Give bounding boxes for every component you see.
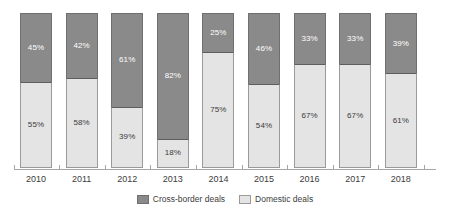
x-axis-tick-2018: [378, 165, 379, 170]
legend-swatch-domestic-icon: [239, 195, 251, 204]
x-axis-tick-2016: [287, 165, 288, 170]
bar-label-cross-border-2015: 46%: [256, 45, 272, 53]
bar-segment-domestic-2015[interactable]: 54%: [248, 84, 280, 168]
bar-label-domestic-2016: 67%: [301, 112, 317, 120]
x-axis-tick-2014: [196, 165, 197, 170]
bar-segment-cross-border-2017[interactable]: 33%: [339, 13, 371, 64]
bar-2012[interactable]: 61%39%: [111, 13, 143, 168]
stacked-bar-chart: 45%55%42%58%61%39%82%18%25%75%46%54%33%6…: [0, 0, 450, 216]
bar-2018[interactable]: 39%61%: [385, 13, 417, 168]
x-axis-line: [14, 169, 436, 170]
bar-segment-cross-border-2013[interactable]: 82%: [157, 13, 189, 139]
bar-segment-domestic-2017[interactable]: 67%: [339, 64, 371, 168]
x-axis-label-2017: 2017: [333, 174, 377, 184]
plot-area: 45%55%42%58%61%39%82%18%25%75%46%54%33%6…: [0, 0, 450, 170]
legend-label-domestic: Domestic deals: [255, 194, 313, 204]
bar-2010[interactable]: 45%55%: [20, 13, 52, 168]
bar-label-domestic-2012: 39%: [119, 133, 135, 141]
x-axis-tick-2013: [150, 165, 151, 170]
bar-label-domestic-2013: 18%: [165, 149, 181, 157]
bar-2015[interactable]: 46%54%: [248, 13, 280, 168]
x-axis-tick-2015: [242, 165, 243, 170]
bar-segment-cross-border-2011[interactable]: 42%: [66, 13, 98, 78]
legend-swatch-cross-icon: [137, 195, 149, 204]
bar-segment-domestic-2013[interactable]: 18%: [157, 139, 189, 168]
x-axis-label-2018: 2018: [379, 174, 423, 184]
x-axis-tick-end: [424, 165, 425, 170]
bar-segment-cross-border-2015[interactable]: 46%: [248, 13, 280, 84]
legend-label-cross: Cross-border deals: [153, 194, 225, 204]
x-axis-label-2012: 2012: [105, 174, 149, 184]
bar-2017[interactable]: 33%67%: [339, 13, 371, 168]
bar-label-cross-border-2016: 33%: [301, 35, 317, 43]
bar-label-domestic-2011: 58%: [73, 119, 89, 127]
x-axis-label-2011: 2011: [60, 174, 104, 184]
chart-legend: Cross-border dealsDomestic deals: [0, 194, 450, 204]
bar-label-domestic-2017: 67%: [347, 112, 363, 120]
bar-label-cross-border-2018: 39%: [393, 40, 409, 48]
x-axis-tick-2010: [14, 165, 15, 170]
bar-label-domestic-2015: 54%: [256, 122, 272, 130]
x-axis-label-2015: 2015: [242, 174, 286, 184]
bar-label-cross-border-2013: 82%: [165, 72, 181, 80]
bar-segment-cross-border-2018[interactable]: 39%: [385, 13, 417, 73]
bar-label-domestic-2010: 55%: [28, 121, 44, 129]
bar-segment-cross-border-2014[interactable]: 25%: [202, 13, 234, 52]
x-axis-label-2010: 2010: [14, 174, 58, 184]
x-axis-tick-2017: [333, 165, 334, 170]
bar-2011[interactable]: 42%58%: [66, 13, 98, 168]
bar-segment-cross-border-2012[interactable]: 61%: [111, 13, 143, 107]
bar-label-cross-border-2017: 33%: [347, 35, 363, 43]
bar-segment-cross-border-2010[interactable]: 45%: [20, 13, 52, 82]
bar-label-domestic-2018: 61%: [393, 117, 409, 125]
bar-2014[interactable]: 25%75%: [202, 13, 234, 168]
x-axis-label-2013: 2013: [151, 174, 195, 184]
bar-label-domestic-2014: 75%: [210, 106, 226, 114]
bar-segment-domestic-2010[interactable]: 55%: [20, 82, 52, 168]
bar-label-cross-border-2011: 42%: [73, 42, 89, 50]
bar-segment-domestic-2018[interactable]: 61%: [385, 73, 417, 168]
bar-label-cross-border-2014: 25%: [210, 29, 226, 37]
bar-2013[interactable]: 82%18%: [157, 13, 189, 168]
bar-segment-domestic-2011[interactable]: 58%: [66, 78, 98, 168]
bar-segment-domestic-2014[interactable]: 75%: [202, 52, 234, 168]
bar-label-cross-border-2012: 61%: [119, 56, 135, 64]
bar-2016[interactable]: 33%67%: [294, 13, 326, 168]
x-axis-tick-2011: [59, 165, 60, 170]
x-axis-label-2014: 2014: [196, 174, 240, 184]
bar-segment-domestic-2012[interactable]: 39%: [111, 107, 143, 168]
bar-segment-cross-border-2016[interactable]: 33%: [294, 13, 326, 64]
legend-item-cross[interactable]: Cross-border deals: [137, 194, 225, 204]
bar-segment-domestic-2016[interactable]: 67%: [294, 64, 326, 168]
bar-label-cross-border-2010: 45%: [28, 44, 44, 52]
x-axis-label-2016: 2016: [288, 174, 332, 184]
x-axis-tick-2012: [105, 165, 106, 170]
legend-item-domestic[interactable]: Domestic deals: [239, 194, 313, 204]
